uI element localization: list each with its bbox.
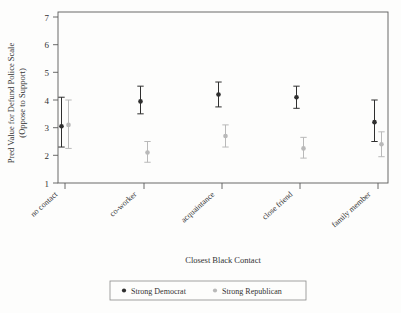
legend-label-strong-republican: Strong Republican <box>222 287 282 296</box>
y-tick-group-2: 2 <box>45 151 59 161</box>
y-tick-label-7: 7 <box>45 13 50 23</box>
x-tick-label-co-worker: co-worker <box>108 190 139 219</box>
x-axis-ticks <box>65 183 378 189</box>
point-marker <box>216 92 221 97</box>
datapoint-co-worker[interactable] <box>144 142 150 163</box>
chart-figure: Pred Value for Defund Police Scale (Oppo… <box>0 0 401 313</box>
y-tick-group-5: 5 <box>45 68 59 78</box>
data-points-layer <box>58 82 384 162</box>
x-tick-label-close-friend: close friend <box>260 190 294 222</box>
datapoint-acquaintance[interactable] <box>215 82 221 107</box>
point-marker <box>223 134 228 139</box>
datapoint-no-contact[interactable] <box>58 97 64 147</box>
point-marker <box>66 123 71 128</box>
x-tick-label-acquaintance: acquaintance <box>179 189 216 224</box>
point-marker <box>59 124 64 129</box>
y-tick-group-6: 6 <box>45 40 59 50</box>
point-marker <box>138 99 143 104</box>
datapoint-family-member[interactable] <box>371 100 377 142</box>
legend-label-strong-democrat: Strong Democrat <box>131 287 187 296</box>
point-marker <box>145 150 150 155</box>
series-strong-democrat <box>58 82 377 147</box>
y-tick-label-5: 5 <box>45 68 50 78</box>
datapoint-co-worker[interactable] <box>137 86 143 114</box>
y-axis: 7 6 5 4 3 2 1 <box>45 13 59 189</box>
y-tick-group-1: 1 <box>45 179 59 189</box>
y-tick-label-1: 1 <box>45 179 50 189</box>
y-tick-group-4: 4 <box>45 96 59 106</box>
point-marker <box>379 142 384 147</box>
point-marker <box>372 120 377 125</box>
point-marker <box>301 146 306 151</box>
y-axis-title: Pred Value for Defund Police Scale (Oppo… <box>6 43 27 164</box>
y-tick-label-3: 3 <box>45 123 50 133</box>
x-tick-label-no-contact: no contact <box>29 189 60 218</box>
series-strong-republican <box>65 100 384 162</box>
y-tick-group-3: 3 <box>45 123 59 133</box>
datapoint-close-friend[interactable] <box>293 86 299 108</box>
legend-marker-strong-republican <box>213 288 217 292</box>
point-marker <box>294 95 299 100</box>
y-tick-group-7: 7 <box>45 13 59 23</box>
datapoint-close-friend[interactable] <box>300 137 306 158</box>
x-axis-tick-labels: no contact co-worker acquaintance close … <box>29 189 373 229</box>
y-axis-title-line2: (Oppose to Support) <box>17 68 27 138</box>
datapoint-acquaintance[interactable] <box>222 125 228 147</box>
x-axis-title: Closest Black Contact <box>185 255 261 265</box>
y-axis-title-line1: Pred Value for Defund Police Scale <box>6 43 16 164</box>
y-tick-label-2: 2 <box>45 151 50 161</box>
y-tick-label-4: 4 <box>45 96 50 106</box>
defund-police-scale-chart: Pred Value for Defund Police Scale (Oppo… <box>0 0 401 313</box>
datapoint-family-member[interactable] <box>378 132 384 157</box>
datapoint-no-contact[interactable] <box>65 100 71 148</box>
legend: Strong Democrat Strong Republican <box>110 281 306 300</box>
x-tick-label-family-member: family member <box>330 190 373 230</box>
legend-marker-strong-democrat <box>122 288 126 292</box>
y-tick-label-6: 6 <box>45 40 50 50</box>
plot-frame <box>58 12 388 183</box>
